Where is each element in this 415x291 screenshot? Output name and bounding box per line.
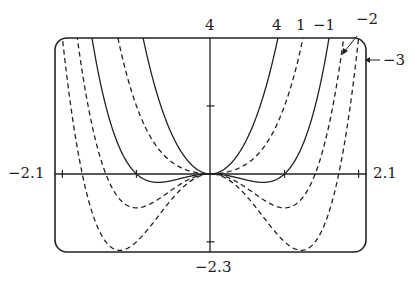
- plot-area: [0, 0, 415, 291]
- y-max-label: 4: [205, 18, 215, 33]
- arrowhead-minus2: [342, 48, 348, 55]
- curve-label-minus1: −1: [313, 18, 335, 33]
- y-min-label: −2.3: [195, 260, 231, 275]
- curve-label-minus3: −3: [383, 53, 405, 68]
- curve-label-minus2: −2: [356, 12, 378, 27]
- x-max-label: 2.1: [373, 166, 397, 181]
- curve-label-4: 4: [272, 18, 282, 33]
- x-min-label: −2.1: [8, 166, 44, 181]
- curve-label-1: 1: [296, 18, 306, 33]
